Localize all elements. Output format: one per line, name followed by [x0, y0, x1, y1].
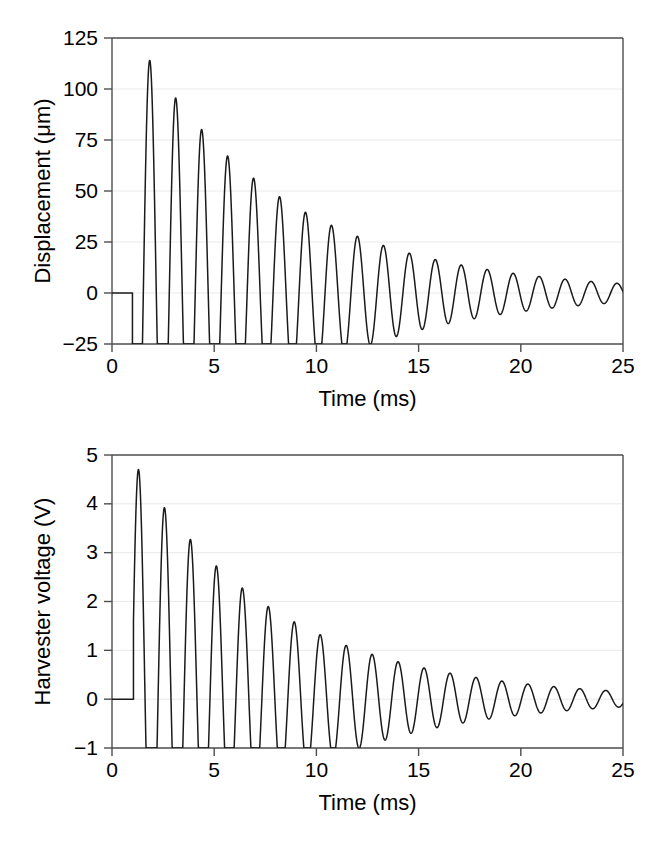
x-tick-label: 25 [611, 354, 634, 377]
y-ticks: −250255075100125 [62, 26, 112, 355]
voltage-chart-svg: −10123450510152025Time (ms)Harvester vol… [0, 430, 661, 856]
x-axis-title: Time (ms) [318, 386, 416, 411]
x-ticks: 0510152025 [106, 748, 635, 781]
y-tick-label: 4 [86, 491, 98, 514]
gridlines [112, 504, 623, 699]
x-tick-label: 15 [407, 758, 430, 781]
y-tick-label: 75 [75, 128, 98, 151]
voltage-panel: −10123450510152025Time (ms)Harvester vol… [0, 430, 661, 856]
x-tick-label: 15 [407, 354, 430, 377]
x-tick-label: 25 [611, 758, 634, 781]
y-tick-label: −1 [74, 736, 98, 759]
y-tick-label: 0 [86, 281, 98, 304]
displacement-panel: −2502550751001250510152025Time (ms)Displ… [0, 0, 661, 430]
data-trace [112, 60, 623, 344]
x-tick-label: 20 [509, 758, 532, 781]
y-tick-label: 0 [86, 687, 98, 710]
displacement-chart-svg: −2502550751001250510152025Time (ms)Displ… [0, 0, 661, 430]
y-tick-label: 5 [86, 443, 98, 466]
y-axis-title: Displacement (μm) [30, 98, 55, 283]
y-tick-label: 1 [86, 638, 98, 661]
y-tick-label: 3 [86, 540, 98, 563]
y-tick-label: 2 [86, 589, 98, 612]
data-trace [112, 470, 623, 748]
y-tick-label: 100 [63, 77, 98, 100]
x-tick-label: 5 [208, 758, 220, 781]
x-tick-label: 10 [305, 758, 328, 781]
x-tick-label: 10 [305, 354, 328, 377]
gridlines [112, 89, 623, 293]
x-tick-label: 0 [106, 354, 118, 377]
y-tick-label: 25 [75, 230, 98, 253]
y-tick-label: −25 [62, 332, 98, 355]
x-tick-label: 0 [106, 758, 118, 781]
y-tick-label: 50 [75, 179, 98, 202]
y-tick-label: 125 [63, 26, 98, 49]
x-ticks: 0510152025 [106, 344, 635, 377]
figure-damped-ringdown-pair: −2502550751001250510152025Time (ms)Displ… [0, 0, 661, 856]
y-ticks: −1012345 [74, 443, 112, 759]
x-tick-label: 5 [208, 354, 220, 377]
y-axis-title: Harvester voltage (V) [30, 498, 55, 706]
x-axis-title: Time (ms) [318, 790, 416, 815]
x-tick-label: 20 [509, 354, 532, 377]
